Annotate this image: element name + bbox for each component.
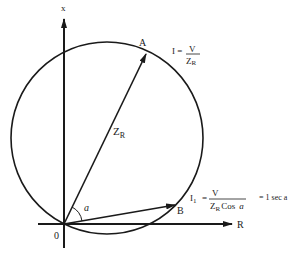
r-axis-label: R [237, 219, 244, 230]
point-b-label: B [177, 205, 184, 216]
angle-arc [72, 207, 82, 221]
formula-i-denominator: ZR [186, 56, 197, 67]
point-a-label: A [139, 37, 147, 48]
x-axis-label: x [61, 3, 66, 13]
formula-i1-rhs: = 1 sec a [259, 193, 288, 202]
angle-label: a [84, 202, 89, 213]
origin-label: 0 [54, 230, 59, 241]
vector-ob [64, 205, 175, 224]
formula-i1-numerator: V [212, 188, 219, 198]
formula-i: I = V ZR [172, 44, 200, 67]
formula-i1: I1 = V ZRCosa = 1 sec a [190, 188, 288, 213]
formula-i-numerator: V [189, 44, 196, 54]
impedance-circle-diagram: x R 0 A B ZR a I = V ZR I1 = V ZRCosa = … [0, 0, 306, 256]
formula-i-lhs: I = [172, 46, 182, 56]
vector-zr-label: ZR [113, 125, 126, 140]
formula-i1-equals: = [202, 193, 207, 203]
formula-i1-denominator: ZRCosa [210, 201, 244, 213]
vector-za [64, 54, 146, 224]
formula-i1-lhs: I1 [190, 193, 197, 205]
